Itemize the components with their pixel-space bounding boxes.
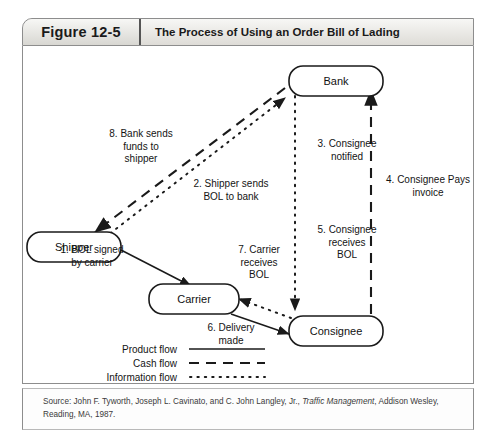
step-label-2: 2. Shipper sends BOL to bank <box>171 178 291 203</box>
node-carrier[interactable]: Carrier <box>149 284 239 314</box>
legend-label-cash: Cash flow <box>65 358 187 369</box>
step-label-1: 1. BOL signed by carrier <box>27 244 157 269</box>
figure-title-cell: The Process of Using an Order Bill of La… <box>141 19 473 45</box>
legend: Product flow Cash flow Information flow <box>65 342 275 384</box>
node-consignee[interactable]: Consignee <box>289 316 383 346</box>
legend-swatch-dashed <box>187 357 271 369</box>
step-label-3: 3. Consignee notified <box>301 138 393 163</box>
node-bank-label: Bank <box>323 75 349 87</box>
step-label-8: 8. Bank sends funds to shipper <box>85 128 197 166</box>
figure-title: The Process of Using an Order Bill of La… <box>155 26 400 38</box>
source-note: Source: John F. Tyworth, Joseph L. Cavin… <box>22 388 474 430</box>
legend-row-information: Information flow <box>65 370 275 384</box>
figure-number-cell: Figure 12-5 <box>23 19 141 45</box>
legend-swatch-solid <box>187 343 271 355</box>
source-prefix: Source: John F. Tyworth, Joseph L. Cavin… <box>43 397 302 406</box>
figure-screenshot: Figure 12-5 The Process of Using an Orde… <box>0 0 494 442</box>
node-carrier-label: Carrier <box>177 293 211 305</box>
legend-label-information: Information flow <box>65 372 187 383</box>
step-label-4: 4. Consignee Pays invoice <box>379 174 477 199</box>
legend-row-product: Product flow <box>65 342 275 356</box>
step-label-7: 7. Carrier receives BOL <box>221 244 297 282</box>
node-consignee-label: Consignee <box>310 325 363 337</box>
flow-line-step-7 <box>239 299 291 318</box>
source-title: Traffic Management <box>302 397 374 406</box>
figure-number: Figure 12-5 <box>41 24 121 40</box>
figure-header: Figure 12-5 The Process of Using an Orde… <box>22 18 474 46</box>
legend-row-cash: Cash flow <box>65 356 275 370</box>
diagram-body: Bank Shipper Carrier Consignee 1. BOL si… <box>22 46 474 384</box>
legend-label-product: Product flow <box>65 344 187 355</box>
step-label-5: 5. Consignee receives BOL <box>301 224 393 262</box>
legend-swatch-dotted <box>187 371 271 383</box>
node-bank[interactable]: Bank <box>289 66 383 96</box>
figure-frame: Figure 12-5 The Process of Using an Orde… <box>22 18 474 412</box>
